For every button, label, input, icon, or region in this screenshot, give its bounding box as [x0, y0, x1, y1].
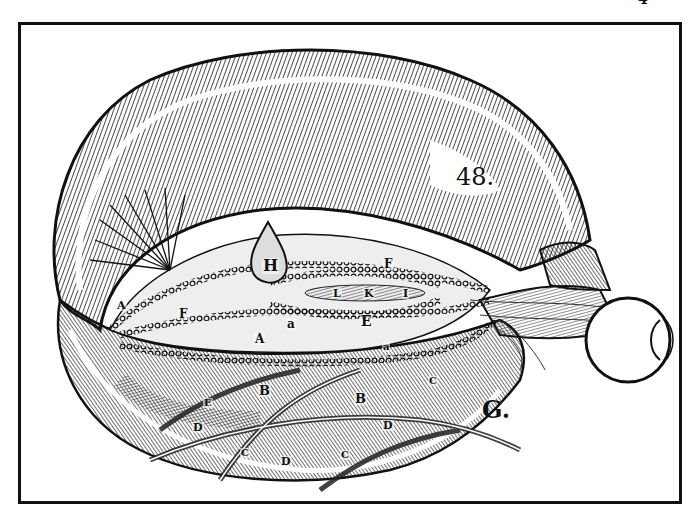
- figure-letter: G.: [482, 398, 510, 422]
- anatomical-label: I: [402, 288, 409, 299]
- anatomical-label: a: [286, 318, 296, 330]
- anatomical-label: B: [354, 392, 367, 405]
- anatomical-label: F: [178, 308, 189, 320]
- anatomical-label: F: [383, 258, 394, 270]
- anatomical-engraving: [0, 0, 698, 517]
- anatomical-label: D: [382, 420, 394, 431]
- anatomical-label: E: [360, 314, 373, 328]
- anatomical-label: K: [363, 288, 375, 299]
- anatomical-label: D: [192, 422, 204, 433]
- plate-number: 48.: [456, 165, 494, 189]
- anatomical-label: C: [340, 450, 350, 460]
- anatomical-label: L: [332, 288, 342, 299]
- page-number: 4: [638, 0, 648, 6]
- anatomical-label: B: [258, 384, 271, 397]
- anatomical-label: C: [240, 448, 250, 458]
- anatomical-label: D: [280, 456, 292, 467]
- anatomical-label: H: [262, 258, 279, 274]
- anatomical-label: a: [382, 342, 390, 352]
- eyeball: [586, 298, 670, 382]
- anatomical-label: E: [203, 398, 213, 408]
- anatomical-label: A: [254, 333, 265, 345]
- anatomical-label: A: [116, 300, 127, 311]
- anatomical-label: C: [428, 376, 438, 386]
